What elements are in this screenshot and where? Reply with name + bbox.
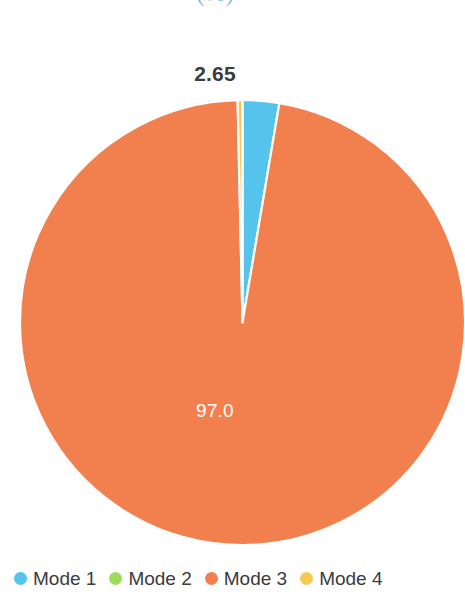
legend-swatch-icon [300, 572, 313, 585]
slice-label-mode-1: 2.65 [0, 62, 430, 86]
legend-label: Mode 1 [33, 569, 96, 588]
legend-label: Mode 3 [224, 569, 287, 588]
chart-legend: Mode 1Mode 2Mode 3Mode 4 [0, 562, 430, 594]
legend-item-mode-1[interactable]: Mode 1 [14, 569, 96, 588]
legend-item-mode-4[interactable]: Mode 4 [300, 569, 382, 588]
pie-chart-area: 2.65 97.0 [0, 0, 430, 556]
legend-swatch-icon [14, 572, 27, 585]
slice-label-mode-3: 97.0 [0, 400, 430, 422]
legend-swatch-icon [205, 572, 218, 585]
pie-slice-group [20, 100, 465, 545]
pie-chart-svg [20, 100, 465, 545]
legend-label: Mode 2 [128, 569, 191, 588]
legend-swatch-icon [109, 572, 122, 585]
legend-label: Mode 4 [319, 569, 382, 588]
legend-item-mode-3[interactable]: Mode 3 [205, 569, 287, 588]
legend-item-mode-2[interactable]: Mode 2 [109, 569, 191, 588]
